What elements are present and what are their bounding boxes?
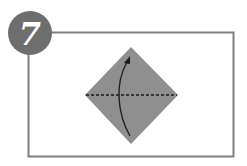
origami-step-diagram: 7 bbox=[0, 0, 247, 166]
step-number: 7 bbox=[19, 15, 41, 53]
